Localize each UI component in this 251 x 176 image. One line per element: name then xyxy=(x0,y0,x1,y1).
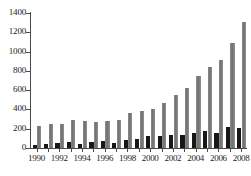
bar-dark xyxy=(180,135,184,148)
bar-gray xyxy=(140,111,144,148)
x-axis-tick xyxy=(241,148,242,152)
y-axis-tick-label: 1200 xyxy=(0,27,26,36)
bar-group xyxy=(226,13,237,148)
x-axis-tick xyxy=(162,148,163,152)
bar-gray xyxy=(117,120,121,148)
x-axis-tick xyxy=(207,148,208,152)
bar-gray xyxy=(208,67,212,148)
bar-group xyxy=(124,13,135,148)
x-axis-tick-label: 1990 xyxy=(25,153,49,163)
x-axis-tick xyxy=(218,148,219,152)
x-axis-tick-label: 2002 xyxy=(161,153,185,163)
x-axis-tick xyxy=(48,148,49,152)
plot-area xyxy=(31,13,247,148)
bar-gray xyxy=(174,95,178,148)
y-axis-tick xyxy=(26,52,31,53)
bar-group xyxy=(203,13,214,148)
bar-group xyxy=(101,13,112,148)
bar-group xyxy=(89,13,100,148)
bar-gray xyxy=(151,109,155,148)
bar-gray xyxy=(128,113,132,148)
bar-gray xyxy=(105,121,109,148)
x-axis-tick xyxy=(173,148,174,152)
bar-group xyxy=(112,13,123,148)
x-axis-tick xyxy=(150,148,151,152)
y-axis-tick xyxy=(26,109,31,110)
x-axis-tick-label: 2004 xyxy=(184,153,208,163)
bar-dark xyxy=(169,135,173,148)
bar-group xyxy=(44,13,55,148)
x-axis-tick-label: 2008 xyxy=(229,153,251,163)
bar-group xyxy=(55,13,66,148)
x-axis-tick xyxy=(105,148,106,152)
bar-dark xyxy=(237,128,241,148)
bar-dark xyxy=(192,133,196,148)
bar-gray xyxy=(71,120,75,148)
bar-gray xyxy=(185,88,189,148)
bar-gray xyxy=(242,22,246,148)
bar-group xyxy=(169,13,180,148)
bar-dark xyxy=(203,131,207,148)
bar-dark xyxy=(124,140,128,148)
bar-gray xyxy=(37,126,41,148)
bar-chart: 0200400600800100012001400 19901992199419… xyxy=(0,0,251,176)
x-axis-tick xyxy=(230,148,231,152)
y-axis-tick xyxy=(26,32,31,33)
y-axis-tick-label: 1000 xyxy=(0,47,26,56)
bar-group xyxy=(192,13,203,148)
y-axis-tick xyxy=(26,71,31,72)
bar-gray xyxy=(83,121,87,148)
bar-gray xyxy=(94,122,98,148)
bar-dark xyxy=(146,136,150,148)
bar-gray xyxy=(196,76,200,148)
y-axis-tick xyxy=(26,13,31,14)
x-axis-tick xyxy=(71,148,72,152)
x-axis-tick-label: 1992 xyxy=(47,153,71,163)
x-axis-tick xyxy=(196,148,197,152)
x-axis-tick xyxy=(139,148,140,152)
bar-gray xyxy=(230,43,234,148)
bar-group xyxy=(237,13,248,148)
bar-group xyxy=(214,13,225,148)
bar-group xyxy=(158,13,169,148)
bar-gray xyxy=(49,124,53,148)
bar-group xyxy=(146,13,157,148)
x-axis-tick xyxy=(82,148,83,152)
y-axis-tick-label: 0 xyxy=(0,143,26,152)
x-axis-tick xyxy=(116,148,117,152)
bar-dark xyxy=(214,133,218,148)
y-axis-tick-label: 200 xyxy=(0,124,26,133)
x-axis-tick-label: 2006 xyxy=(206,153,230,163)
bar-dark xyxy=(158,136,162,148)
x-axis-tick-label: 1996 xyxy=(93,153,117,163)
bar-group xyxy=(33,13,44,148)
bar-group xyxy=(135,13,146,148)
y-axis-tick-label: 600 xyxy=(0,85,26,94)
x-axis-tick-label: 1994 xyxy=(70,153,94,163)
x-axis-tick xyxy=(184,148,185,152)
x-axis-tick xyxy=(127,148,128,152)
y-axis-labels: 0200400600800100012001400 xyxy=(0,0,26,176)
y-axis-tick-label: 400 xyxy=(0,104,26,113)
x-axis-tick xyxy=(93,148,94,152)
x-axis-tick xyxy=(37,148,38,152)
x-axis-tick-label: 2000 xyxy=(138,153,162,163)
bar-gray xyxy=(60,124,64,148)
y-axis-tick xyxy=(26,148,31,149)
y-axis-tick xyxy=(26,129,31,130)
bar-dark xyxy=(135,139,139,148)
bar-group xyxy=(180,13,191,148)
bar-group xyxy=(67,13,78,148)
y-axis-tick-label: 1400 xyxy=(0,8,26,17)
bar-gray xyxy=(219,60,223,148)
bar-group xyxy=(78,13,89,148)
y-axis-tick-label: 800 xyxy=(0,66,26,75)
x-axis-tick xyxy=(59,148,60,152)
bar-gray xyxy=(162,103,166,148)
x-axis-tick-label: 1998 xyxy=(115,153,139,163)
y-axis-tick xyxy=(26,90,31,91)
bar-dark xyxy=(226,127,230,148)
